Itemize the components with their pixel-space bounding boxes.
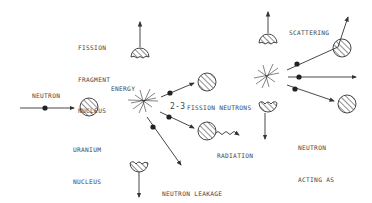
label-chain-carrier: NEUTRON ACTING AS CHAIN CARRIER <box>298 122 350 203</box>
radiation-wave-icon <box>216 132 239 136</box>
free-neutron-arrow <box>288 74 356 79</box>
fission-fragment-right-top-icon <box>259 12 277 44</box>
incoming-neutron-arrow <box>20 105 74 110</box>
target-nucleus-lower-icon <box>198 122 216 140</box>
label-fission-neutrons-count: 2-3 <box>170 102 185 113</box>
label-line: ACTING AS <box>298 175 350 186</box>
energy-burst-right-icon <box>254 64 279 88</box>
fission-fragment-bottom-icon <box>130 162 148 197</box>
label-line: NEUTRON <box>298 143 350 154</box>
label-line: URANIUM <box>73 145 101 156</box>
label-uranium-nucleus: URANIUM NUCLEUS <box>73 124 101 198</box>
label-line: FISSION <box>78 43 110 54</box>
fission-neutron-lower <box>160 112 194 128</box>
scattering-nucleus-icon <box>333 39 351 57</box>
label-line: FRAGMENT <box>78 75 110 86</box>
label-scattering: SCATTERING <box>289 28 329 39</box>
label-neutron-leakage: NEUTRON LEAKAGE FROM SYSTEM <box>162 168 222 203</box>
fission-neutron-upper <box>161 83 194 97</box>
label-energy: ENERGY <box>111 84 135 95</box>
fission-fragment-top-icon <box>131 22 149 58</box>
chain-carrier-nucleus-icon <box>338 95 356 113</box>
label-line: NUCLEUS <box>73 177 101 188</box>
label-fission-neutrons: FISSION NEUTRONS <box>187 103 251 114</box>
chain-carrier-neutron-arrow <box>287 85 334 101</box>
label-line: NUCLEUS <box>78 106 110 117</box>
target-nucleus-upper-icon <box>198 73 216 91</box>
label-neutron: NEUTRON <box>32 91 60 102</box>
fission-fragment-right-bottom-icon <box>259 102 277 139</box>
label-radiation: RADIATION <box>217 151 253 162</box>
label-fission-fragment: FISSION FRAGMENT NUCLEUS <box>78 22 110 127</box>
label-line: NEUTRON LEAKAGE <box>162 189 222 200</box>
neutron-leakage-arrow <box>147 117 181 165</box>
